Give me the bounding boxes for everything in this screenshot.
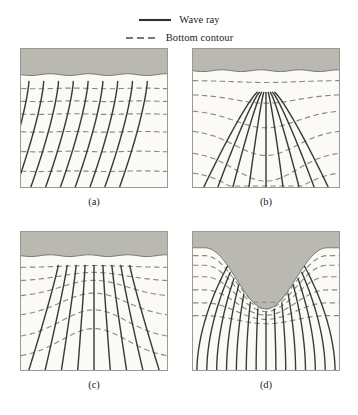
panel-c: (c) bbox=[20, 231, 168, 392]
solid-line-icon bbox=[138, 15, 172, 25]
dashed-line-icon bbox=[125, 33, 159, 43]
panel-d: (d) bbox=[192, 231, 340, 392]
panel-b: (b) bbox=[192, 48, 340, 209]
panel-a-diagram bbox=[20, 48, 168, 188]
legend-item-wave-ray: Wave ray bbox=[138, 12, 219, 27]
wave-refraction-figure: Wave ray Bottom contour (a) (b) (c) (d) bbox=[0, 0, 358, 415]
panel-grid: (a) (b) (c) (d) bbox=[0, 46, 358, 406]
panel-b-caption: (b) bbox=[192, 195, 340, 209]
panel-a: (a) bbox=[20, 48, 168, 209]
legend: Wave ray Bottom contour bbox=[0, 12, 358, 45]
legend-item-bottom-contour: Bottom contour bbox=[125, 30, 234, 45]
panel-d-caption: (d) bbox=[192, 378, 340, 392]
panel-b-diagram bbox=[192, 48, 340, 188]
legend-label-wave-ray: Wave ray bbox=[179, 14, 219, 26]
panel-c-caption: (c) bbox=[20, 378, 168, 392]
legend-label-bottom-contour: Bottom contour bbox=[166, 32, 234, 44]
panel-a-caption: (a) bbox=[20, 195, 168, 209]
panel-d-diagram bbox=[192, 231, 340, 371]
panel-c-diagram bbox=[20, 231, 168, 371]
